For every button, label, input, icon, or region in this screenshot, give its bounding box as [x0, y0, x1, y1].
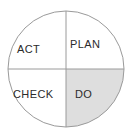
quadrant-label-check: CHECK	[13, 89, 54, 100]
pdca-circle-graphic	[0, 0, 133, 139]
quadrant-label-do: DO	[75, 89, 92, 100]
quadrant-label-plan: PLAN	[70, 39, 100, 50]
quadrant-label-act: ACT	[17, 44, 40, 55]
pdca-cycle-diagram: ACT PLAN CHECK DO	[0, 0, 133, 139]
